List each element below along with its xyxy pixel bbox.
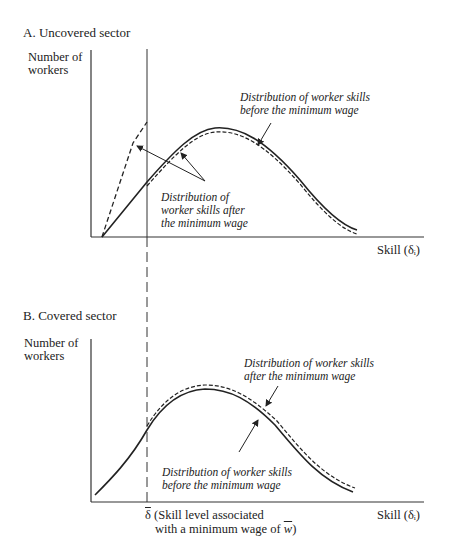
panel-b-after-label-2: after the minimum wage [244,370,355,383]
panel-a-ylabel-1: Number of [28,50,83,64]
panel-b-before-label-1: Distribution of worker skills [162,466,292,479]
panel-a-after-label-3: the minimum wage [161,217,248,230]
wage-bar-symbol: w [284,522,292,536]
panel-b-before-label-2: before the minimum wage [162,479,281,492]
panel-a-after-curve [102,122,147,237]
panel-a-axes [91,50,424,237]
panel-b-after-label-1: Distribution of worker skills [244,357,374,370]
threshold-label-line1: δ (Skill level associated [145,508,264,522]
delta-bar-symbol: δ [145,508,151,522]
panel-b-ylabel-2: workers [24,349,64,363]
panel-b-ylabel-1: Number of [24,336,79,350]
panel-a-before-label-2: before the minimum wage [240,104,359,117]
threshold-label-line2: with a minimum wage of w) [155,522,296,536]
panel-a-after-label-2: worker skills after [161,204,245,217]
panel-a-xlabel: Skill (δᵢ) [377,243,420,257]
panel-b-title: B. Covered sector [23,309,117,323]
panel-b-xlabel: Skill (δᵢ) [377,508,420,522]
panel-a-after-label-1: Distribution of [161,191,229,204]
panel-a-before-label-1: Distribution of worker skills [240,91,370,104]
panel-a-title: A. Uncovered sector [23,26,130,40]
panel-a-ylabel-2: workers [28,63,68,77]
